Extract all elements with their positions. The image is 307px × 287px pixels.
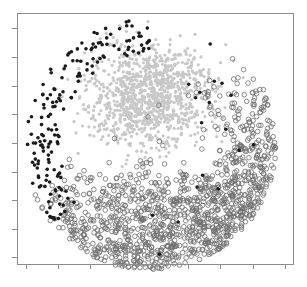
point-light-gray-filled bbox=[190, 116, 193, 119]
point-light-gray-filled bbox=[161, 75, 164, 78]
point-light-gray-filled bbox=[143, 89, 146, 92]
point-light-gray-filled bbox=[135, 150, 138, 153]
point-light-gray-filled bbox=[112, 124, 115, 127]
point-light-gray-filled bbox=[118, 56, 121, 59]
point-light-gray-filled bbox=[82, 103, 85, 106]
point-light-gray-filled bbox=[100, 94, 103, 97]
point-light-gray-filled bbox=[130, 135, 133, 138]
point-solid-black bbox=[58, 194, 62, 198]
point-solid-black bbox=[123, 52, 127, 56]
point-solid-black bbox=[130, 24, 134, 28]
point-light-gray-filled bbox=[187, 90, 190, 93]
point-light-gray-filled bbox=[77, 67, 80, 70]
point-solid-black bbox=[33, 99, 37, 103]
point-light-gray-filled bbox=[113, 114, 116, 117]
point-light-gray-filled bbox=[140, 103, 143, 106]
point-light-gray-filled bbox=[159, 54, 162, 57]
point-solid-black bbox=[51, 105, 55, 109]
point-light-gray-filled bbox=[121, 133, 124, 136]
point-light-gray-filled bbox=[106, 87, 109, 90]
point-light-gray-filled bbox=[88, 134, 91, 137]
point-light-gray-filled bbox=[167, 65, 170, 68]
point-solid-black bbox=[137, 51, 141, 55]
point-solid-black bbox=[132, 49, 136, 53]
point-light-gray-filled bbox=[135, 62, 138, 65]
point-solid-black bbox=[60, 76, 64, 80]
point-light-gray-filled bbox=[195, 140, 198, 143]
point-light-gray-filled bbox=[113, 71, 116, 74]
point-light-gray-filled bbox=[143, 156, 146, 159]
point-light-gray-filled bbox=[115, 41, 118, 44]
point-light-gray-filled bbox=[130, 94, 133, 97]
point-light-gray-filled bbox=[145, 151, 148, 154]
point-light-gray-filled bbox=[141, 122, 144, 125]
point-light-gray-filled bbox=[156, 111, 159, 114]
point-solid-black bbox=[37, 159, 41, 163]
point-solid-black bbox=[43, 185, 47, 189]
point-light-gray-filled bbox=[157, 130, 160, 133]
point-light-gray-filled bbox=[143, 126, 146, 129]
point-solid-black bbox=[208, 101, 212, 105]
point-light-gray-filled bbox=[146, 133, 149, 136]
point-light-gray-filled bbox=[185, 80, 188, 83]
point-solid-black bbox=[66, 197, 70, 201]
point-light-gray-filled bbox=[179, 95, 182, 98]
point-light-gray-filled bbox=[150, 147, 153, 150]
point-light-gray-filled bbox=[139, 70, 142, 73]
point-solid-black bbox=[95, 32, 99, 36]
point-light-gray-filled bbox=[94, 74, 97, 77]
point-light-gray-filled bbox=[147, 95, 150, 98]
point-solid-black bbox=[42, 149, 46, 153]
point-solid-black bbox=[40, 123, 44, 127]
point-solid-black bbox=[224, 128, 228, 132]
point-solid-black bbox=[201, 174, 205, 178]
point-light-gray-filled bbox=[179, 91, 182, 94]
point-light-gray-filled bbox=[160, 117, 163, 120]
point-light-gray-filled bbox=[151, 47, 154, 50]
point-solid-black bbox=[64, 64, 68, 68]
point-solid-black bbox=[79, 60, 83, 64]
point-light-gray-filled bbox=[84, 108, 87, 111]
point-solid-black bbox=[96, 60, 100, 64]
point-light-gray-filled bbox=[203, 75, 206, 78]
point-light-gray-filled bbox=[122, 70, 125, 73]
point-solid-black bbox=[55, 128, 59, 132]
point-light-gray-filled bbox=[113, 60, 116, 63]
point-light-gray-filled bbox=[155, 75, 158, 78]
point-light-gray-filled bbox=[212, 108, 215, 111]
point-light-gray-filled bbox=[202, 68, 205, 71]
point-light-gray-filled bbox=[99, 37, 102, 40]
point-solid-black bbox=[48, 206, 52, 210]
point-light-gray-filled bbox=[199, 87, 202, 90]
point-light-gray-filled bbox=[142, 61, 145, 64]
point-light-gray-filled bbox=[140, 130, 143, 133]
point-light-gray-filled bbox=[187, 58, 190, 61]
point-light-gray-filled bbox=[148, 67, 151, 70]
point-light-gray-filled bbox=[175, 113, 178, 116]
point-light-gray-filled bbox=[118, 118, 121, 121]
point-light-gray-filled bbox=[185, 112, 188, 115]
point-light-gray-filled bbox=[108, 83, 111, 86]
point-light-gray-filled bbox=[127, 143, 130, 146]
point-solid-black bbox=[132, 36, 136, 40]
point-light-gray-filled bbox=[117, 77, 120, 80]
point-light-gray-filled bbox=[95, 102, 98, 105]
point-light-gray-filled bbox=[101, 135, 104, 138]
point-solid-black bbox=[84, 47, 88, 51]
point-light-gray-filled bbox=[141, 142, 144, 145]
point-solid-black bbox=[42, 103, 46, 107]
point-light-gray-filled bbox=[155, 80, 158, 83]
point-solid-black bbox=[50, 150, 54, 154]
point-light-gray-filled bbox=[168, 50, 171, 53]
point-solid-black bbox=[118, 27, 122, 31]
point-light-gray-filled bbox=[147, 111, 150, 114]
point-light-gray-filled bbox=[122, 108, 125, 111]
point-solid-black bbox=[40, 116, 44, 120]
point-solid-black bbox=[94, 45, 98, 49]
point-solid-black bbox=[60, 164, 64, 168]
point-solid-black bbox=[38, 140, 42, 144]
point-light-gray-filled bbox=[201, 110, 204, 113]
point-solid-black bbox=[200, 121, 204, 125]
point-light-gray-filled bbox=[132, 89, 135, 92]
point-light-gray-filled bbox=[148, 105, 151, 108]
